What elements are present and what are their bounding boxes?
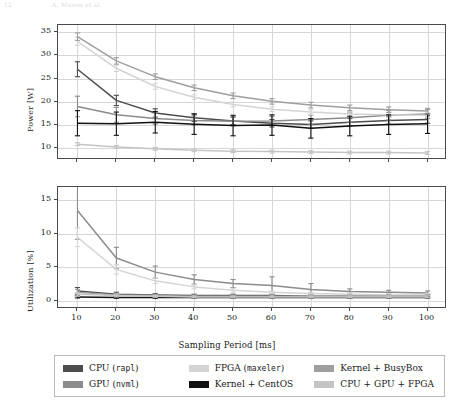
y-tick-label: 5 bbox=[0, 261, 51, 270]
y-tick-mark bbox=[54, 300, 57, 301]
x-tick-label: 10 bbox=[61, 313, 91, 322]
y-tick-label: 10 bbox=[0, 228, 51, 237]
y-tick-label: 10 bbox=[0, 142, 51, 151]
x-tick-mark bbox=[271, 308, 272, 311]
x-tick-mark bbox=[115, 159, 116, 162]
series-layer bbox=[58, 25, 446, 159]
y-tick-mark bbox=[54, 233, 57, 234]
x-tick-mark bbox=[76, 159, 77, 162]
y-tick-label: 20 bbox=[0, 96, 51, 105]
series-gpu-nvml bbox=[75, 186, 430, 296]
legend-item[interactable]: Kernel + BusyBox bbox=[314, 364, 436, 373]
x-tick-mark bbox=[115, 308, 116, 311]
series-fpga-maxeler bbox=[75, 37, 430, 118]
utilization-plot-area bbox=[57, 186, 446, 308]
x-tick-mark bbox=[349, 159, 350, 162]
x-tick-label: 40 bbox=[178, 313, 208, 322]
legend-item-label: CPU (rapl) bbox=[89, 364, 139, 373]
x-tick-mark bbox=[427, 308, 428, 311]
legend-swatch bbox=[314, 381, 334, 388]
y-tick-label: 15 bbox=[0, 119, 51, 128]
y-tick-mark bbox=[54, 266, 57, 267]
y-tick-mark bbox=[54, 101, 57, 102]
x-tick-label: 20 bbox=[100, 313, 130, 322]
series-cpu-gpu-fpga bbox=[75, 143, 430, 155]
legend-item-label: Kernel + BusyBox bbox=[340, 364, 423, 373]
x-tick-mark bbox=[310, 159, 311, 162]
sampling-period-axis-label: Sampling Period [ms] bbox=[0, 340, 454, 350]
y-tick-label: 25 bbox=[0, 73, 51, 82]
legend-item[interactable]: Kernel + CentOS bbox=[189, 380, 311, 389]
figure: Power [W] 101520253035 Utilization [%] S… bbox=[0, 12, 454, 408]
legend-item-label: FPGA (maxeler) bbox=[215, 364, 285, 373]
x-tick-mark bbox=[193, 308, 194, 311]
legend-swatch bbox=[189, 365, 209, 372]
page-header-left: 12 bbox=[4, 1, 12, 8]
series-cpu-rapl bbox=[75, 62, 430, 129]
legend: CPU (rapl)FPGA (maxeler)Kernel + BusyBox… bbox=[54, 355, 445, 397]
y-tick-mark bbox=[54, 31, 57, 32]
series-layer bbox=[58, 187, 446, 308]
legend-item[interactable]: CPU (rapl) bbox=[63, 364, 185, 373]
y-tick-mark bbox=[54, 147, 57, 148]
x-tick-mark bbox=[154, 308, 155, 311]
legend-item[interactable]: FPGA (maxeler) bbox=[189, 364, 311, 373]
x-tick-mark bbox=[232, 308, 233, 311]
page-header-right: A. Mason et al. bbox=[52, 1, 102, 8]
x-tick-label: 30 bbox=[139, 313, 169, 322]
power-chart-panel: Power [W] 101520253035 bbox=[0, 12, 454, 172]
x-tick-label: 60 bbox=[256, 313, 286, 322]
y-tick-mark bbox=[54, 54, 57, 55]
y-tick-label: 35 bbox=[0, 26, 51, 35]
legend-item-label: Kernel + CentOS bbox=[215, 380, 294, 389]
legend-item-label: GPU (nvml) bbox=[89, 380, 139, 389]
power-plot-area bbox=[57, 24, 446, 159]
legend-swatch bbox=[63, 381, 83, 388]
utilization-chart-panel: Utilization [%] Sampling Period [ms] 051… bbox=[0, 172, 454, 352]
x-tick-mark bbox=[349, 308, 350, 311]
x-tick-label: 50 bbox=[217, 313, 247, 322]
x-tick-mark bbox=[193, 159, 194, 162]
y-tick-mark bbox=[54, 78, 57, 79]
x-tick-mark bbox=[232, 159, 233, 162]
x-tick-mark bbox=[310, 308, 311, 311]
legend-swatch bbox=[314, 365, 334, 372]
y-tick-label: 30 bbox=[0, 49, 51, 58]
page-header: 12 A. Mason et al. bbox=[0, 0, 454, 12]
x-tick-label: 80 bbox=[334, 313, 364, 322]
legend-item-label: CPU + GPU + FPGA bbox=[340, 380, 434, 389]
x-tick-mark bbox=[388, 308, 389, 311]
x-tick-mark bbox=[154, 159, 155, 162]
y-tick-label: 15 bbox=[0, 194, 51, 203]
y-tick-mark bbox=[54, 124, 57, 125]
x-tick-mark bbox=[76, 308, 77, 311]
y-tick-mark bbox=[54, 199, 57, 200]
x-tick-mark bbox=[271, 159, 272, 162]
x-tick-label: 100 bbox=[412, 313, 442, 322]
y-tick-label: 0 bbox=[0, 295, 51, 304]
legend-grid: CPU (rapl)FPGA (maxeler)Kernel + BusyBox… bbox=[55, 356, 444, 396]
x-tick-mark bbox=[427, 159, 428, 162]
legend-item[interactable]: GPU (nvml) bbox=[63, 380, 185, 389]
x-tick-label: 90 bbox=[373, 313, 403, 322]
x-tick-label: 70 bbox=[295, 313, 325, 322]
x-tick-mark bbox=[388, 159, 389, 162]
legend-swatch bbox=[63, 365, 83, 372]
legend-item[interactable]: CPU + GPU + FPGA bbox=[314, 380, 436, 389]
legend-swatch bbox=[189, 381, 209, 388]
